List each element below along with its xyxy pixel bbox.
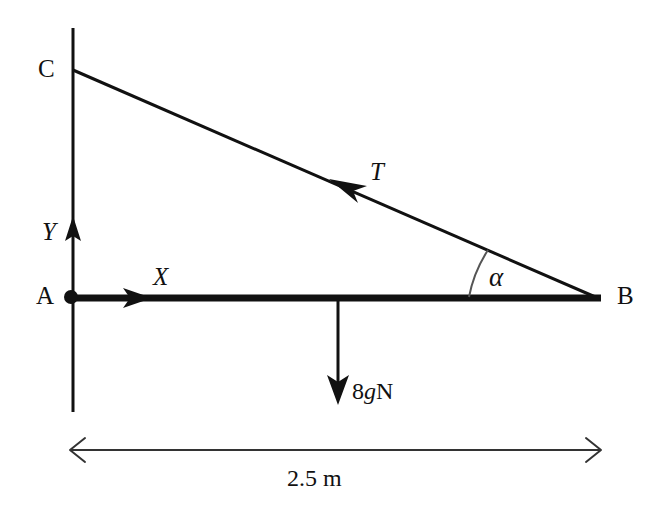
mechanics-diagram: C A B Y X T α 8gN 2.5 m (0, 0, 666, 515)
dimension-label: 2.5 m (287, 466, 342, 490)
tension-label: T (370, 159, 384, 184)
diagram-canvas (0, 0, 666, 515)
weight-label: 8gN (352, 379, 393, 403)
tension-arrowhead (329, 179, 367, 203)
weight-value: 8 (352, 378, 364, 404)
angle-label: α (489, 264, 503, 291)
point-a-label: A (36, 283, 54, 308)
point-c-label: C (38, 56, 55, 81)
angle-arc (469, 250, 488, 297)
weight-unit: N (376, 378, 393, 404)
point-b-label: B (617, 283, 634, 308)
y-axis-label: Y (42, 219, 56, 244)
weight-gravity-symbol: g (364, 378, 376, 404)
point-a-marker (64, 290, 78, 304)
x-axis-label: X (153, 264, 168, 289)
